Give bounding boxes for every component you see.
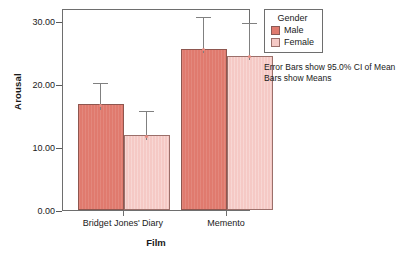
error-bar-cap-bjd-male (93, 83, 108, 84)
mean-marker-bjd-male (99, 104, 102, 107)
bar-bjd-female[interactable] (124, 135, 170, 210)
x-tick-mark-memento (226, 211, 227, 216)
x-axis-title: Film (62, 237, 250, 248)
legend-label-female: Female (284, 37, 314, 48)
x-tick-label-bjd: Bridget Jones' Diary (63, 218, 183, 228)
plot-area (62, 9, 250, 211)
legend-label-male: Male (284, 25, 304, 36)
legend-item-female[interactable]: Female (271, 37, 314, 48)
error-bar-cap-memento-female (242, 23, 257, 24)
mean-marker-memento-male (202, 48, 205, 51)
legend-swatch-male-icon (271, 26, 280, 35)
y-tick-label-20: 20.00 (19, 80, 55, 90)
y-tick-label-0: 0.00 (19, 206, 55, 216)
chart-footnote: Error Bars show 95.0% CI of Mean Bars sh… (264, 62, 395, 84)
bar-chart: Arousal 30.00 20.00 10.00 0.00 (0, 0, 415, 259)
legend: Gender Male Female (264, 9, 323, 53)
legend-swatch-female-icon (271, 38, 280, 47)
y-axis-tick-labels: 30.00 20.00 10.00 0.00 (17, 0, 55, 259)
mean-marker-bjd-female (145, 135, 148, 138)
y-tick-mark-0 (56, 211, 62, 212)
footnote-line-1: Error Bars show 95.0% CI of Mean (264, 62, 395, 73)
bar-memento-male[interactable] (181, 49, 227, 210)
footnote-line-2: Bars show Means (264, 73, 395, 84)
x-tick-label-memento: Memento (176, 218, 276, 228)
mean-marker-memento-female (248, 55, 251, 58)
y-tick-label-30: 30.00 (19, 17, 55, 27)
error-bar-cap-memento-male (196, 17, 211, 18)
bar-bjd-male[interactable] (78, 104, 124, 210)
legend-title: Gender (271, 13, 314, 23)
x-tick-mark-bjd (123, 211, 124, 216)
error-bar-cap-bjd-female (139, 111, 154, 112)
y-tick-label-10: 10.00 (19, 143, 55, 153)
legend-item-male[interactable]: Male (271, 25, 314, 36)
